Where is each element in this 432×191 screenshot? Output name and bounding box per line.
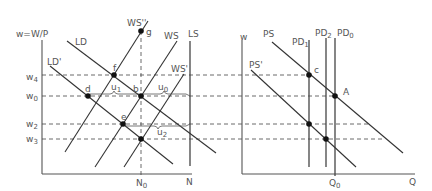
point-g-label: g bbox=[146, 27, 152, 37]
point-f bbox=[111, 72, 117, 78]
left-panel: w=W/P N N0 w4 w0 w2 w3 LD LD' WS'' WS WS… bbox=[16, 18, 385, 190]
point-a bbox=[332, 93, 338, 99]
point-a-label: A bbox=[343, 87, 350, 97]
point-ps-prime-pd1 bbox=[306, 121, 312, 127]
left-y-axis-label: w=W/P bbox=[16, 29, 49, 39]
point-ps-prime-pd2 bbox=[323, 136, 329, 142]
w3-label: w3 bbox=[26, 134, 38, 146]
point-w3-n0 bbox=[138, 136, 144, 142]
point-e-label: e bbox=[121, 112, 127, 122]
u0-label: u0 bbox=[158, 82, 168, 94]
ls-label: LS bbox=[188, 29, 199, 39]
ld-prime-curve bbox=[50, 66, 173, 164]
ws-double-prime-label: WS'' bbox=[127, 18, 147, 28]
w0-label: w0 bbox=[26, 91, 38, 103]
ps-prime-curve bbox=[251, 70, 356, 167]
point-b-label: b bbox=[133, 84, 139, 94]
point-g bbox=[138, 28, 144, 34]
point-b bbox=[138, 93, 144, 99]
u1-label: u1 bbox=[111, 82, 121, 94]
point-d-label: d bbox=[85, 84, 91, 94]
ld-label: LD bbox=[75, 37, 87, 47]
point-c-label: c bbox=[314, 65, 319, 75]
labor-product-market-diagram: w=W/P N N0 w4 w0 w2 w3 LD LD' WS'' WS WS… bbox=[0, 0, 432, 191]
ws-prime-label: WS' bbox=[171, 64, 188, 74]
q0-label: Q0 bbox=[329, 178, 341, 190]
u2-label: u2 bbox=[157, 127, 167, 139]
ps-curve bbox=[272, 42, 403, 153]
ps-prime-label: PS' bbox=[249, 60, 263, 70]
w4-label: w4 bbox=[26, 72, 38, 84]
left-x-axis-label: N bbox=[186, 177, 193, 187]
ps-label: PS bbox=[263, 29, 274, 39]
right-x-axis-label: Q bbox=[409, 177, 416, 187]
point-c bbox=[306, 72, 312, 78]
ld-prime-label: LD' bbox=[47, 57, 61, 67]
right-y-axis-label: w bbox=[240, 32, 247, 42]
ws-label: WS bbox=[164, 31, 179, 41]
right-panel: w Q Q0 PS PS' PD1 PD2 PD0 c A bbox=[240, 28, 416, 190]
point-e bbox=[120, 121, 126, 127]
point-d bbox=[85, 93, 91, 99]
pd0-label: PD0 bbox=[337, 28, 354, 40]
pd1-label: PD1 bbox=[292, 37, 309, 49]
pd2-label: PD2 bbox=[315, 28, 332, 40]
n0-label: N0 bbox=[136, 178, 147, 190]
w2-label: w2 bbox=[26, 119, 38, 131]
